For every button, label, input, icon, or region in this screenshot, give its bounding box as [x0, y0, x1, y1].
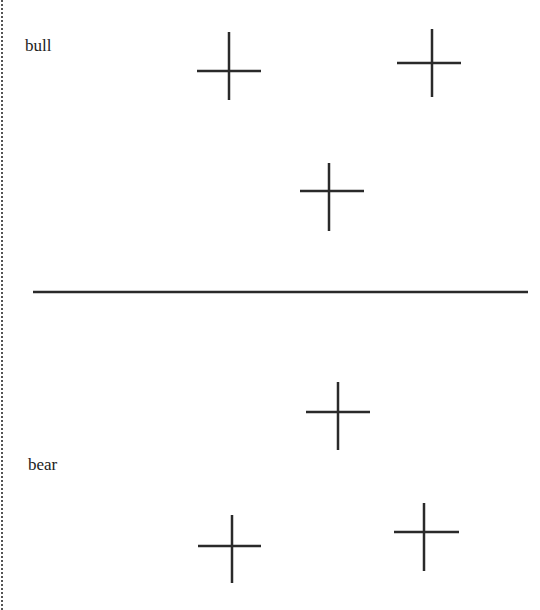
cross-marker-icon	[300, 163, 364, 231]
cross-marker-icon	[397, 29, 461, 97]
cross-marker-icon	[306, 382, 370, 450]
cross-marker-icon	[198, 515, 261, 583]
cross-marker-icon	[394, 503, 459, 571]
cross-marker-icon	[197, 32, 261, 100]
cross-markers	[197, 29, 461, 583]
diagram-canvas	[0, 0, 540, 610]
